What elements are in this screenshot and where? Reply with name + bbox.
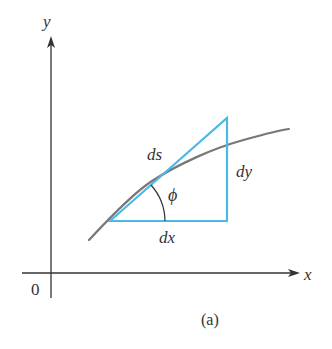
y-axis bbox=[47, 36, 55, 298]
y-axis-label: y bbox=[41, 12, 51, 31]
dx-label: dx bbox=[159, 228, 176, 247]
x-axis bbox=[22, 269, 300, 277]
dy-label: dy bbox=[236, 162, 253, 181]
origin-label: 0 bbox=[31, 280, 40, 299]
differential-triangle bbox=[110, 118, 227, 221]
ds-label: ds bbox=[147, 145, 163, 164]
x-axis-label: x bbox=[303, 265, 312, 284]
curve bbox=[89, 129, 289, 240]
figure-caption: (a) bbox=[201, 311, 219, 329]
phi-label: ϕ bbox=[168, 185, 177, 205]
angle-arc bbox=[151, 185, 165, 221]
arc-length-diagram: y x 0 ds dy dx ϕ (a) bbox=[0, 0, 332, 349]
